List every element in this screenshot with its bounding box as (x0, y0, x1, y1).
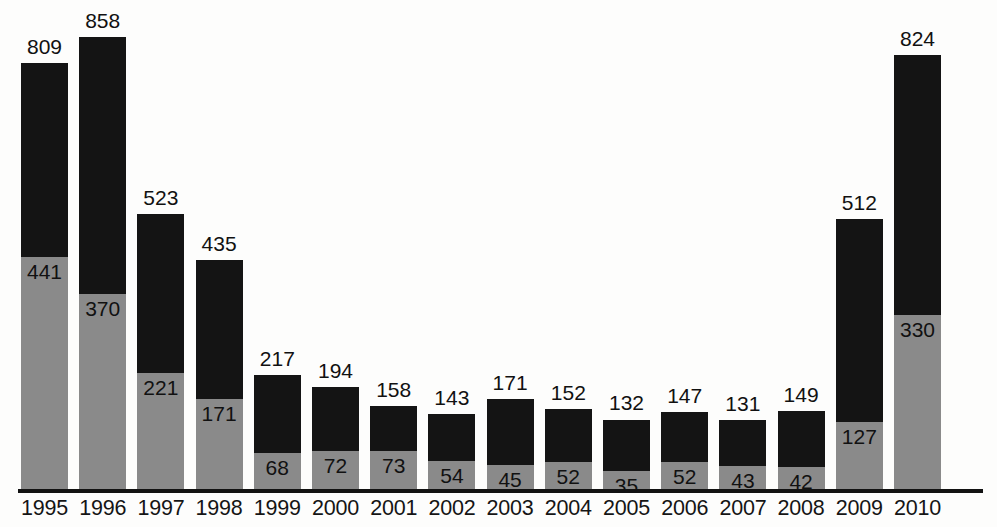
x-tick-1996: 1996 (74, 495, 131, 521)
bar-1995-lower-label: 441 (27, 261, 62, 282)
bar-1999-total-label: 217 (260, 348, 295, 369)
bar-2002-total-label: 143 (434, 387, 469, 408)
bar-2003-upper-segment[interactable] (487, 399, 534, 465)
bar-1996-upper-segment[interactable] (79, 37, 126, 294)
x-tick-2005: 2005 (598, 495, 655, 521)
x-tick-2006: 2006 (656, 495, 713, 521)
stacked-bar-chart: 1995199619971998199920002001200220032004… (0, 0, 997, 527)
bar-2007-total-label: 131 (725, 393, 760, 414)
bar-1998-upper-segment[interactable] (196, 260, 243, 399)
bar-2008-total-label: 149 (784, 384, 819, 405)
bar-2000-total-label: 194 (318, 360, 353, 381)
bar-2005-total-label: 132 (609, 392, 644, 413)
x-tick-2007: 2007 (714, 495, 771, 521)
x-tick-1995: 1995 (16, 495, 73, 521)
bar-2005-upper-segment[interactable] (603, 420, 650, 471)
bar-2010-total-label: 824 (900, 28, 935, 49)
bar-2010-upper-segment[interactable] (894, 55, 941, 315)
bar-1997-upper-segment[interactable] (137, 214, 184, 373)
bar-2001-upper-segment[interactable] (370, 406, 417, 451)
x-tick-2009: 2009 (831, 495, 888, 521)
x-axis-tick-labels: 1995199619971998199920002001200220032004… (0, 495, 997, 527)
bar-2006-total-label: 147 (667, 385, 702, 406)
bar-1998-lower-label: 171 (202, 403, 237, 424)
bar-1995-upper-segment[interactable] (21, 63, 68, 257)
bar-2008-lower-label: 42 (789, 471, 812, 492)
bar-2003-total-label: 171 (493, 372, 528, 393)
bar-1996[interactable] (79, 37, 126, 489)
bar-2006-lower-label: 52 (673, 466, 696, 487)
bar-2010-lower-segment[interactable] (894, 315, 941, 489)
bar-2000-lower-label: 72 (324, 455, 347, 476)
bar-2006-upper-segment[interactable] (661, 412, 708, 462)
bar-1997-total-label: 523 (143, 187, 178, 208)
x-tick-1998: 1998 (191, 495, 248, 521)
bar-2010[interactable] (894, 55, 941, 489)
x-tick-1997: 1997 (132, 495, 189, 521)
x-tick-2000: 2000 (307, 495, 364, 521)
x-tick-1999: 1999 (249, 495, 306, 521)
bar-2002-lower-label: 54 (440, 465, 463, 486)
bar-2010-lower-label: 330 (900, 319, 935, 340)
bar-2001-lower-label: 73 (382, 455, 405, 476)
bar-1996-lower-segment[interactable] (79, 294, 126, 489)
bar-2007-upper-segment[interactable] (719, 420, 766, 466)
x-tick-2008: 2008 (773, 495, 830, 521)
x-tick-2003: 2003 (482, 495, 539, 521)
bar-1996-total-label: 858 (85, 10, 120, 31)
bar-2004-upper-segment[interactable] (545, 409, 592, 462)
bar-2009[interactable] (836, 219, 883, 489)
bar-2000-upper-segment[interactable] (312, 387, 359, 451)
bar-2005-lower-label: 35 (615, 475, 638, 496)
bar-2004-lower-label: 52 (557, 466, 580, 487)
bar-2002-upper-segment[interactable] (428, 414, 475, 461)
bar-2009-upper-segment[interactable] (836, 219, 883, 422)
bar-1997[interactable] (137, 214, 184, 489)
bar-2008-upper-segment[interactable] (778, 411, 825, 467)
x-tick-2004: 2004 (540, 495, 597, 521)
bar-1997-lower-label: 221 (143, 377, 178, 398)
bar-2001-total-label: 158 (376, 379, 411, 400)
bar-1998[interactable] (196, 260, 243, 489)
bar-1996-lower-label: 370 (85, 298, 120, 319)
bar-2009-total-label: 512 (842, 192, 877, 213)
x-tick-2002: 2002 (423, 495, 480, 521)
bar-1998-total-label: 435 (202, 233, 237, 254)
bar-2009-lower-label: 127 (842, 426, 877, 447)
bar-1995-lower-segment[interactable] (21, 257, 68, 489)
x-tick-2010: 2010 (889, 495, 946, 521)
bar-2004-total-label: 152 (551, 382, 586, 403)
x-tick-2001: 2001 (365, 495, 422, 521)
bar-1999-lower-label: 68 (266, 457, 289, 478)
bar-1999-upper-segment[interactable] (254, 375, 301, 453)
bar-2007-lower-label: 43 (731, 470, 754, 491)
bar-2003-lower-label: 45 (498, 469, 521, 490)
bar-1995-total-label: 809 (27, 36, 62, 57)
plot-area (0, 0, 997, 492)
